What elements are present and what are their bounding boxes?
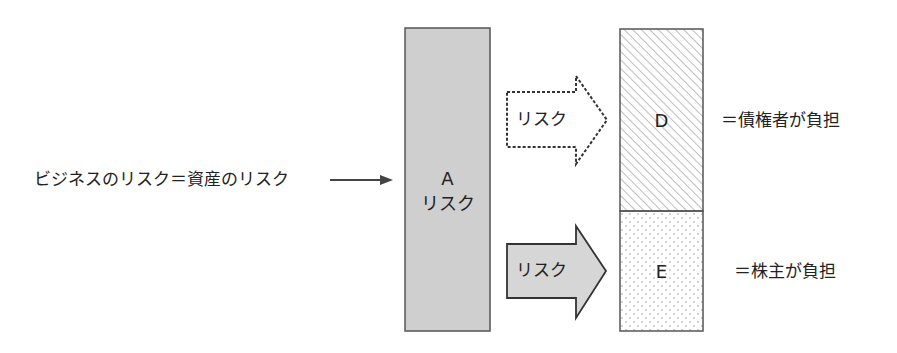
debt-arrow-text: リスク xyxy=(507,111,576,128)
equity-caption: ＝株主が負担 xyxy=(734,263,836,280)
asset-box-text: リスク xyxy=(405,195,490,213)
pointer-arrow-icon xyxy=(330,175,393,185)
equity-box-letter: E xyxy=(620,263,703,281)
equity-arrow-text: リスク xyxy=(507,262,576,279)
business-risk-label: ビジネスのリスク＝資産のリスク xyxy=(34,171,289,188)
debt-box-letter: D xyxy=(620,112,703,130)
debt-caption: ＝債権者が負担 xyxy=(721,112,840,129)
asset-box-letter: A xyxy=(405,170,490,188)
